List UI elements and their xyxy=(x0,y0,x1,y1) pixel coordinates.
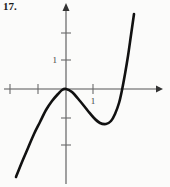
x-tick-label-1: 1 xyxy=(91,96,96,106)
cubic-curve xyxy=(16,14,134,177)
figure-panel: 17. 1 1 xyxy=(0,0,170,187)
y-axis-arrow-icon xyxy=(63,3,70,11)
cubic-function-graph: 1 1 xyxy=(0,0,170,187)
x-axis-arrow-icon xyxy=(156,86,163,93)
y-tick-label-1: 1 xyxy=(53,55,58,65)
